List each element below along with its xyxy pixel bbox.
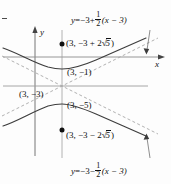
focus-lower-label: (3, −3 − 2√5)	[66, 130, 114, 140]
upper-eq-frac-denominator: 2	[95, 20, 101, 28]
upper-asymptote-equation: y=−3+12(x − 3)	[71, 11, 127, 29]
vertex-upper-label: (3, −1)	[67, 68, 92, 77]
focus-lower-close: )	[111, 130, 114, 140]
focus-upper-close: )	[111, 38, 114, 48]
lower-eq-fraction: 12	[95, 162, 101, 180]
upper-eq-factor: (x − 3)	[102, 15, 127, 25]
focus-lower-dot	[60, 128, 65, 133]
center-label: (3, −3)	[19, 90, 44, 99]
upper-eq-operator: +	[90, 15, 95, 25]
focus-upper-label: (3, −3 + 2√5)	[66, 38, 114, 48]
focus-upper-open: (3, −3 + 2	[66, 38, 102, 48]
focus-upper-radical: √5	[102, 38, 111, 48]
x-axis-label: x	[155, 60, 159, 69]
lower-eq-factor: (x − 3)	[102, 166, 127, 176]
upper-eq-term1: −3	[80, 15, 90, 25]
vertex-lower-label: (3, −5)	[67, 101, 92, 110]
page-edge-tick	[2, 18, 7, 19]
lower-eq-operator: −	[90, 166, 95, 176]
focus-upper-dot	[60, 42, 65, 47]
y-axis-label: y	[40, 28, 44, 37]
hyperbola-figure: y x y=−3+12(x − 3) (3, −3 + 2√5) (3, −1)…	[0, 0, 171, 184]
lower-eq-frac-denominator: 2	[95, 171, 101, 179]
lower-asymptote-equation: y=−3−12(x − 3)	[71, 162, 127, 180]
lower-eq-term1: −3	[80, 166, 90, 176]
focus-lower-radical: √5	[102, 130, 111, 140]
focus-lower-open: (3, −3 − 2	[66, 130, 102, 140]
leader-line-lower	[144, 134, 150, 159]
upper-eq-fraction: 12	[95, 11, 101, 29]
